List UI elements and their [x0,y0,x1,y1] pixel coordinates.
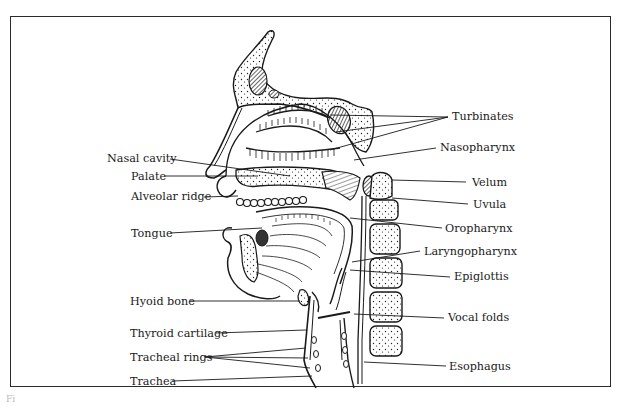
velum-shape [322,171,360,200]
label-oropharynx: Oropharynx [445,223,512,235]
label-epiglottis: Epiglottis [454,271,509,283]
tracheal-rings-shape [312,333,349,372]
label-velum: Velum [472,177,507,189]
upper-teeth [237,197,307,207]
larynx [304,268,354,388]
label-vocal-folds: Vocal folds [448,312,509,324]
label-esophagus: Esophagus [449,361,511,373]
label-laryngopharynx: Laryngopharynx [424,246,517,258]
figure-caption-fragment: Fi [6,394,15,404]
hyoid-shape [298,290,309,306]
label-trachea: Trachea [130,376,176,388]
vertebrae [370,173,402,356]
mandible [240,235,258,282]
pharynx-wall [358,196,362,384]
label-hyoid-bone: Hyoid bone [130,296,195,308]
skull-bone [233,31,373,152]
vocal-tract-illustration [0,0,632,408]
label-palate: Palate [131,171,166,183]
label-alveolar-ridge: Alveolar ridge [131,191,211,203]
label-nasopharynx: Nasopharynx [440,142,515,154]
label-turbinates: Turbinates [452,111,514,123]
upper-lip [217,176,236,197]
label-nasal-cavity: Nasal cavity [107,153,177,165]
label-tongue: Tongue [131,228,173,240]
label-tracheal-rings: Tracheal rings [130,352,212,364]
label-uvula: Uvula [473,199,506,211]
label-thyroid-cartilage: Thyroid cartilage [130,328,228,340]
